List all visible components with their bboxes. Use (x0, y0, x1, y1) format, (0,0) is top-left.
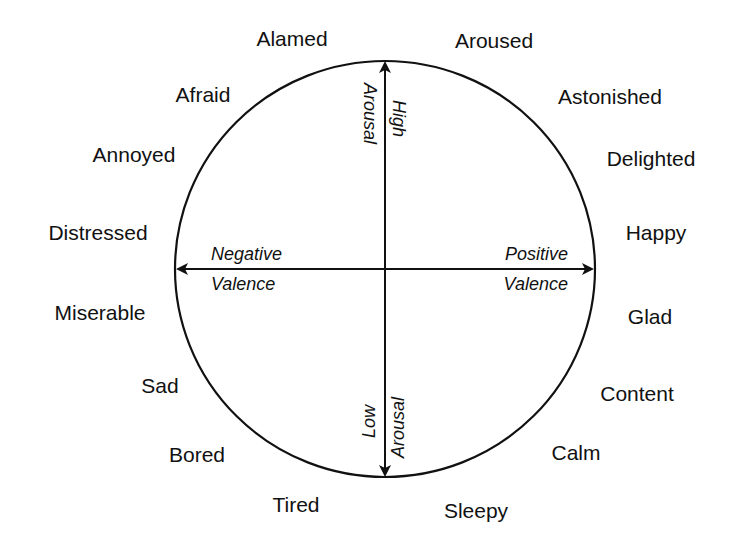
low-arousal-label-line1: Low (359, 404, 379, 438)
emotion-label-distressed: Distressed (48, 221, 147, 244)
emotion-label-delighted: Delighted (607, 147, 696, 170)
positive-valence-label-line2: Valence (504, 274, 568, 294)
emotion-label-annoyed: Annoyed (93, 143, 176, 166)
low-arousal-label-line2: Arousal (388, 396, 408, 459)
emotion-label-alamed: Alamed (256, 27, 327, 50)
high-arousal-label-line1: High (389, 100, 409, 137)
emotion-label-sleepy: Sleepy (444, 499, 509, 522)
emotion-label-sad: Sad (141, 374, 178, 397)
emotion-label-astonished: Astonished (558, 85, 662, 108)
emotion-label-happy: Happy (626, 221, 687, 244)
emotion-label-afraid: Afraid (176, 83, 231, 106)
high-arousal-label-line2: Arousal (360, 82, 380, 145)
negative-valence-label-line1: Negative (211, 244, 282, 264)
negative-valence-label-line2: Valence (211, 274, 275, 294)
emotion-label-tired: Tired (272, 493, 319, 516)
emotion-label-glad: Glad (628, 305, 672, 328)
circumplex-diagram: High Arousal Low Arousal Negative Valenc… (0, 0, 735, 554)
emotion-label-miserable: Miserable (54, 301, 145, 324)
emotion-label-calm: Calm (551, 441, 600, 464)
emotion-label-aroused: Aroused (455, 29, 533, 52)
emotion-label-bored: Bored (169, 443, 225, 466)
emotion-label-content: Content (600, 382, 674, 405)
positive-valence-label-line1: Positive (505, 244, 568, 264)
